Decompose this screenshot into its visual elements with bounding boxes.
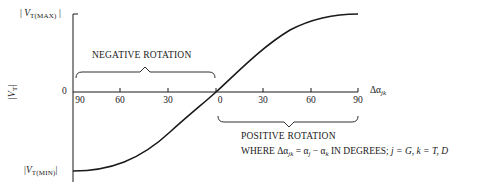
y-zero-label: 0 — [62, 87, 67, 97]
x-tick-label: 0 — [218, 96, 223, 106]
y-axis-title: |VT| — [6, 85, 19, 99]
x-ticks — [120, 88, 358, 92]
x-axis-title: Δαjk — [370, 86, 386, 97]
y-min-label: |VT(MIN)| — [24, 166, 57, 177]
negative-rotation-label: NEGATIVE ROTATION — [92, 51, 191, 61]
diagram-canvas — [0, 0, 480, 186]
positive-rotation-label: POSITIVE ROTATION — [241, 132, 336, 142]
x-tick-label: 30 — [163, 96, 173, 106]
x-tick-label: 60 — [115, 96, 125, 106]
x-tick-label: 90 — [353, 96, 363, 106]
x-tick-label: 90 — [75, 96, 85, 106]
y-max-label: | VT(MAX) | — [20, 9, 61, 20]
x-tick-label: 60 — [306, 96, 316, 106]
negative-rotation-brace — [76, 67, 215, 78]
where-definition: WHERE Δαjk = αj − αk IN DEGREES; j = G, … — [241, 147, 448, 158]
x-tick-label: 30 — [258, 96, 268, 106]
positive-rotation-brace — [218, 116, 358, 127]
